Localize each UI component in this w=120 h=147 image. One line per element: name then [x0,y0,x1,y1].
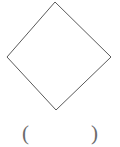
rhombus-outline-icon [7,2,111,110]
close-paren: ) [91,123,98,144]
rhombus-diagram [0,0,120,116]
worksheet-figure: ( ) [0,0,120,147]
answer-blank-input[interactable] [29,126,91,142]
shape-region [0,0,120,116]
answer-field-row[interactable]: ( ) [0,120,120,147]
open-paren: ( [22,123,29,144]
